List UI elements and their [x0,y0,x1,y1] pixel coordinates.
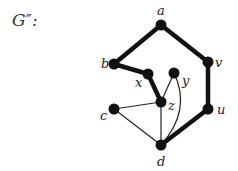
label-c: c [100,108,108,123]
label-d: d [157,154,165,169]
label-b: b [101,56,109,71]
label-a: a [157,3,165,18]
node-x [143,69,154,80]
edge-u-d [161,109,208,145]
node-d [156,140,167,151]
label-v: v [215,55,223,70]
graph-diagram: a b v x y z c u d [0,0,238,171]
node-b [109,59,120,70]
node-u [203,104,214,115]
node-z [156,97,167,108]
node-c [109,104,120,115]
label-x: x [135,75,143,90]
label-z: z [167,98,175,113]
edge-c-d [114,109,161,145]
node-a [156,20,167,31]
edge-a-v [161,25,208,62]
label-y: y [181,73,190,88]
label-u: u [217,102,225,117]
edge-c-z [114,102,161,109]
node-v [203,57,214,68]
edge-a-b [114,25,161,64]
node-y [169,68,180,79]
